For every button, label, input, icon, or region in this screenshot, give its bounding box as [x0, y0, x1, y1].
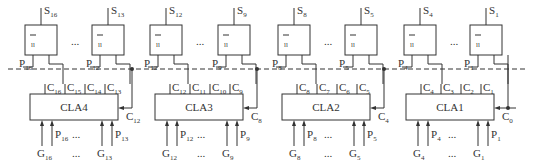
p-label-s4: P4: [398, 57, 408, 72]
sum-label-s4: S4: [423, 4, 433, 19]
input-p16: P16: [55, 128, 69, 143]
sum-label-s5: S5: [364, 4, 374, 19]
p-label-s9: P9: [212, 57, 222, 72]
input-p1: P1: [491, 128, 501, 143]
ellipsis: ...: [72, 128, 81, 140]
xor-symbol: ll: [410, 41, 414, 49]
p-label-s13: P12: [86, 57, 100, 72]
cla-label: CLA4: [60, 101, 88, 113]
cla-label: CLA1: [436, 101, 464, 113]
input-g13: G13: [97, 147, 112, 162]
sum-label-s9: S9: [237, 4, 247, 19]
input-g8: G8: [289, 147, 301, 162]
xor-gate-s8: S8llP8...: [272, 4, 333, 84]
ellipsis: ...: [450, 35, 459, 47]
p-label-s8: P8: [272, 57, 282, 72]
xor-symbol: ll: [476, 41, 480, 49]
input-p8: P8: [307, 128, 317, 143]
p-label-s12: P12: [144, 57, 158, 72]
ellipsis: ...: [71, 35, 80, 47]
carry-in-c12: C12: [126, 110, 141, 125]
xor-gate-s9: S9llP9: [212, 4, 256, 84]
cla-label: CLA2: [312, 101, 340, 113]
xor-gate-s4: S4llP4...: [398, 4, 459, 84]
xor-symbol: ll: [156, 41, 160, 49]
carry-in-c0: C0: [502, 110, 513, 125]
ellipsis: ...: [448, 128, 457, 140]
p-label-s1: P1: [464, 57, 474, 72]
ellipsis: ...: [72, 147, 81, 159]
xor-gate-s5: S5llP5: [339, 4, 383, 84]
ellipsis: ...: [448, 147, 457, 159]
input-g9: G9: [222, 147, 234, 162]
cla-block-cla2: CLA2C8C7C6C5G8P8G5P5......C4: [282, 67, 389, 162]
xor-symbol: ll: [31, 41, 35, 49]
input-p5: P5: [367, 128, 377, 143]
xor-gate-s13: S13llP12: [86, 4, 130, 84]
input-g5: G5: [349, 147, 361, 162]
sum-label-s12: S12: [169, 4, 183, 19]
ellipsis: ...: [324, 35, 333, 47]
xor-symbol: ll: [351, 41, 355, 49]
ellipsis: ...: [196, 35, 205, 47]
input-p4: P4: [431, 128, 441, 143]
xor-gate-s12: S12llP12...: [144, 4, 205, 84]
xor-gate-s16: S16llP16...: [19, 4, 80, 84]
ellipsis: ...: [197, 147, 206, 159]
cla-label: CLA3: [185, 101, 213, 113]
input-g12: G12: [162, 147, 177, 162]
input-g16: G16: [37, 147, 52, 162]
ellipsis: ...: [197, 128, 206, 140]
input-p12: P12: [180, 128, 194, 143]
cla-block-cla1: CLA1C4C3C2C1G4P4G1P1......C0: [406, 55, 516, 162]
xor-gate-s1: S1llP1: [464, 4, 508, 84]
p-label-s16: P16: [19, 57, 33, 72]
cla-block-cla3: CLA3C12C11C10C9G12P12G9P9......C8: [155, 67, 262, 162]
ellipsis: ...: [324, 128, 333, 140]
p-label-s5: P5: [339, 57, 349, 72]
xor-symbol: ll: [224, 41, 228, 49]
xor-symbol: ll: [284, 41, 288, 49]
xor-symbol: ll: [98, 41, 102, 49]
sum-label-s13: S13: [111, 4, 125, 19]
input-g4: G4: [413, 147, 425, 162]
sum-label-s8: S8: [297, 4, 307, 19]
input-g1: G1: [473, 147, 485, 162]
sum-label-s1: S1: [489, 4, 499, 19]
ellipsis: ...: [324, 147, 333, 159]
carry-in-c8: C8: [251, 110, 262, 125]
sum-label-s16: S16: [44, 4, 58, 19]
input-p13: P13: [115, 128, 129, 143]
carry-in-c4: C4: [378, 110, 389, 125]
cla-block-cla4: CLA4C16C15C14C13G16P16G13P13......C12: [30, 67, 141, 162]
cla-adder-diagram: S16llP16...S13llP12S12llP12...S9llP9S8ll…: [0, 0, 538, 165]
input-p9: P9: [240, 128, 250, 143]
